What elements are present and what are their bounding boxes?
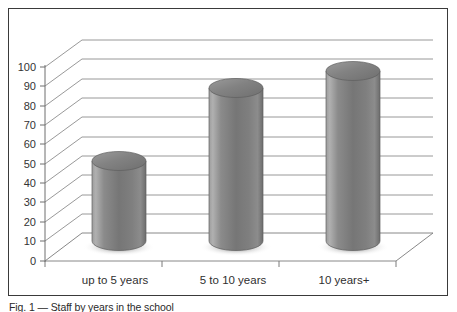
y-tick-label: 30 [24, 196, 36, 208]
chart-frame: 100 90 80 70 60 50 40 30 20 10 0 [8, 8, 448, 296]
y-tick-label: 0 [30, 255, 36, 267]
x-axis-label-1: 5 to 10 years [200, 274, 267, 286]
y-tick-label: 70 [24, 119, 36, 131]
bar-body [92, 161, 146, 251]
bar-top-cap [209, 79, 263, 98]
y-tick-label: 80 [24, 100, 36, 112]
bar-group-2[interactable] [317, 62, 389, 257]
bar-top-cap [326, 62, 380, 81]
y-tick-label: 60 [24, 138, 36, 150]
bar-group-0[interactable] [83, 152, 155, 257]
x-axis-labels: up to 5 years 5 to 10 years 10 years+ [82, 274, 370, 286]
y-tick-label: 50 [24, 158, 36, 170]
y-tick-label: 100 [18, 61, 36, 73]
y-tick-label: 10 [24, 235, 36, 247]
bar-top-cap [92, 152, 146, 171]
y-tick-labels: 100 90 80 70 60 50 40 30 20 10 0 [18, 61, 36, 267]
figure-caption: Fig. 1 — Staff by years in the school [9, 301, 457, 312]
x-axis-label-2: 10 years+ [319, 274, 370, 286]
bar-body [209, 88, 263, 251]
y-axis-ticks [40, 67, 45, 261]
y-tick-label: 20 [24, 216, 36, 228]
x-axis-label-0: up to 5 years [82, 274, 149, 286]
x-axis-ticks [45, 261, 396, 267]
y-tick-label: 40 [24, 177, 36, 189]
y-tick-label: 90 [24, 80, 36, 92]
figure-root: 100 90 80 70 60 50 40 30 20 10 0 [0, 0, 457, 312]
bar-group-1[interactable] [200, 79, 272, 257]
bar-body [326, 71, 380, 251]
bar-chart-3d: 100 90 80 70 60 50 40 30 20 10 0 [9, 9, 449, 297]
